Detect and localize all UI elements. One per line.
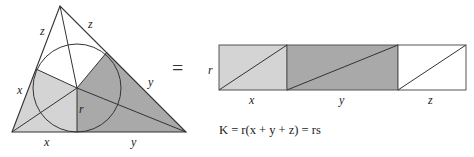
rect-label-r: r xyxy=(208,63,213,77)
rect-label-z: z xyxy=(427,93,433,107)
label-z-left: z xyxy=(39,24,45,38)
label-y-bottom: y xyxy=(130,135,137,149)
label-z-right: z xyxy=(87,17,93,31)
label-y-right: y xyxy=(147,75,154,89)
area-formula: K = r(x + y + z) = rs xyxy=(219,123,321,138)
rect-label-y: y xyxy=(338,93,345,107)
label-r: r xyxy=(79,102,84,116)
label-x-bottom: x xyxy=(43,135,50,149)
rect-label-x: x xyxy=(248,93,255,107)
equals-sign: = xyxy=(172,57,183,79)
label-x-left: x xyxy=(16,83,23,97)
